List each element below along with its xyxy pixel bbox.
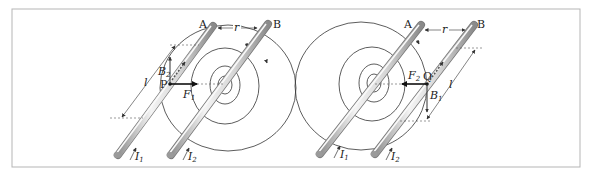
point-p-label: P (160, 78, 168, 91)
force-f1-label: F1 (182, 88, 195, 102)
parallel-wires-figure: l r A B P F1 B2 I1 I2 (0, 0, 590, 177)
field-b2-label: B2 (157, 65, 171, 79)
left-panel: l r A B P F1 B2 I1 I2 (110, 18, 296, 164)
current-i1-label-left: I1 (134, 150, 144, 164)
distance-label-left: r (234, 21, 240, 34)
wire-b-label-right: B (477, 18, 485, 31)
wire-a-label-left: A (198, 18, 208, 31)
wire-b-label-left: B (273, 18, 281, 31)
current-i1-label-right: I1 (339, 148, 349, 162)
field-b1-label: B1 (429, 89, 443, 103)
length-label-left: l (144, 76, 148, 89)
magnetic-field-circles-left (160, 25, 296, 151)
right-panel: l r A B Q F2 B1 I1 I2 (295, 18, 485, 164)
wire-a-right (316, 25, 422, 157)
current-i2-label-left: I2 (187, 150, 197, 164)
wire-a-label-right: A (403, 18, 413, 31)
wire-b-left (167, 24, 269, 158)
length-label-right: l (449, 78, 453, 91)
force-f2-label: F2 (407, 69, 421, 83)
wire-b-right (371, 25, 475, 157)
wire-a-left (114, 26, 214, 158)
point-q-label: Q (423, 70, 432, 83)
current-i2-label-right: I2 (390, 150, 400, 164)
distance-label-right: r (442, 23, 448, 36)
